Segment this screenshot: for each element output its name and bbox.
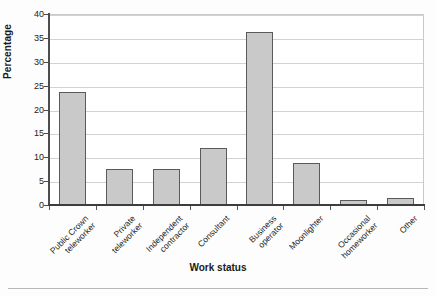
- x-axis-title: Work status: [0, 262, 436, 273]
- x-axis-category-labels: Public Crown teleworkerPrivate teleworke…: [0, 0, 436, 296]
- bar-chart-figure: Percentage 0510152025303540 Public Crown…: [0, 0, 436, 296]
- bottom-rule: [8, 288, 428, 289]
